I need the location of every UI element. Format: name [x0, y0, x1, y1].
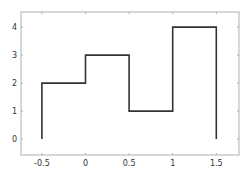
x-tick-label: -0.5: [34, 159, 50, 168]
y-tick-label: 2: [12, 79, 17, 88]
stairs-chart: -0.500.511.5 01234: [0, 0, 252, 174]
y-tick-label: 3: [12, 51, 17, 60]
x-tick-label: 1.5: [210, 159, 223, 168]
x-tick-label: 0.5: [123, 159, 136, 168]
y-tick-label: 4: [12, 23, 17, 32]
y-tick-label: 1: [12, 107, 17, 116]
x-tick-label: 1: [170, 159, 175, 168]
y-tick-label: 0: [12, 135, 17, 144]
x-tick-label: 0: [83, 159, 88, 168]
